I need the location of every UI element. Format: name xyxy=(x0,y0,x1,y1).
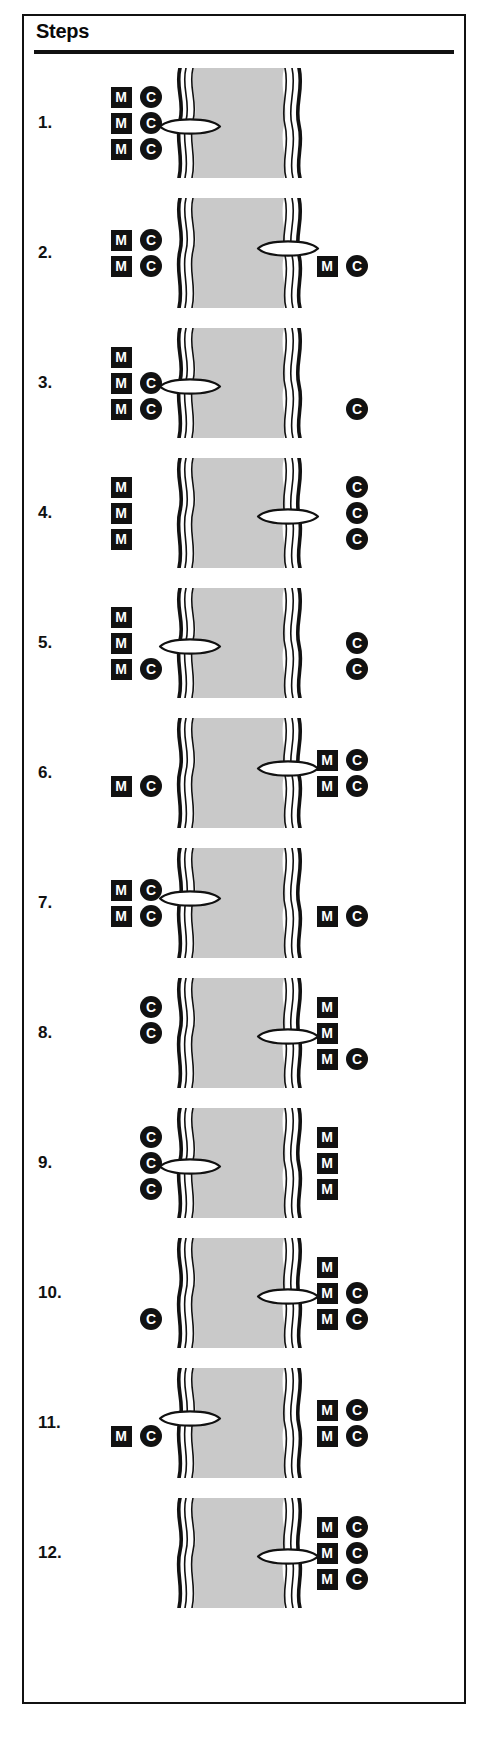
carrier-circle-label: C xyxy=(140,1308,162,1330)
methyl-square-label: M xyxy=(111,906,132,927)
glyph-row xyxy=(312,370,372,396)
step-number: 10. xyxy=(38,1283,62,1303)
right-glyph-column: C xyxy=(312,344,372,422)
carrier-circle-label: C xyxy=(346,749,368,771)
step-number: 2. xyxy=(38,243,52,263)
carrier-circle-icon: C xyxy=(136,1306,166,1332)
carrier-circle-label: C xyxy=(346,1048,368,1070)
carrier-circle-label: C xyxy=(346,255,368,277)
step-number: 4. xyxy=(38,503,52,523)
carrier-circle-label: C xyxy=(346,905,368,927)
glyph-row: C xyxy=(312,656,372,682)
methyl-square-icon: M xyxy=(312,1423,342,1449)
methyl-square-label: M xyxy=(317,1517,338,1538)
glyph-row: C xyxy=(106,1020,166,1046)
spacer xyxy=(111,1023,132,1044)
carrier-circle-label: C xyxy=(346,502,368,524)
carrier-circle-icon: C xyxy=(136,136,166,162)
carrier-circle-icon: C xyxy=(342,1540,372,1566)
spacer xyxy=(111,1309,132,1330)
glyph-row: C xyxy=(106,994,166,1020)
methyl-square-label: M xyxy=(317,1569,338,1590)
spacer xyxy=(347,1179,368,1200)
empty-slot xyxy=(312,370,342,396)
methyl-square-label: M xyxy=(111,880,132,901)
methyl-square-label: M xyxy=(111,1426,132,1447)
glyph-row: MC xyxy=(312,773,372,799)
right-glyph-column: CCC xyxy=(312,474,372,552)
methyl-square-label: M xyxy=(317,1179,338,1200)
spacer xyxy=(317,373,338,394)
methyl-square-icon: M xyxy=(106,474,136,500)
empty-slot xyxy=(342,1150,372,1176)
methyl-square-label: M xyxy=(111,776,132,797)
step-row: 1.MCMCMC xyxy=(24,62,464,184)
methyl-square-label: M xyxy=(111,399,132,420)
methyl-square-label: M xyxy=(317,1257,338,1278)
empty-slot xyxy=(106,1306,136,1332)
glyph-row: MC xyxy=(106,253,166,279)
spacer xyxy=(141,1283,162,1304)
empty-slot xyxy=(312,656,342,682)
glyph-row: MC xyxy=(106,396,166,422)
carrier-circle-label: C xyxy=(140,86,162,108)
spacer xyxy=(111,1283,132,1304)
carrier-circle-label: C xyxy=(346,1568,368,1590)
glyph-row: C xyxy=(312,474,372,500)
methyl-square-icon: M xyxy=(106,526,136,552)
spacer xyxy=(347,347,368,368)
vesicle-lens-icon xyxy=(256,1544,320,1569)
spacer xyxy=(141,529,162,550)
spacer xyxy=(141,750,162,771)
glyph-row: MC xyxy=(106,110,166,136)
spacer xyxy=(317,659,338,680)
methyl-square-label: M xyxy=(317,1309,338,1330)
step-number: 3. xyxy=(38,373,52,393)
empty-slot xyxy=(136,500,166,526)
right-glyph-column: MCMCMC xyxy=(312,1514,372,1592)
carrier-circle-icon: C xyxy=(136,396,166,422)
empty-slot xyxy=(312,604,342,630)
glyph-row: MC xyxy=(106,656,166,682)
step-row: 3.MMCMCC xyxy=(24,322,464,444)
methyl-square-label: M xyxy=(111,230,132,251)
carrier-circle-icon: C xyxy=(136,227,166,253)
glyph-row: MC xyxy=(312,903,372,929)
glyph-row: C xyxy=(312,396,372,422)
methyl-square-icon: M xyxy=(106,1423,136,1449)
carrier-circle-icon: C xyxy=(136,656,166,682)
vesicle-lens-icon xyxy=(256,1284,320,1309)
spacer xyxy=(347,880,368,901)
empty-slot xyxy=(106,1046,136,1072)
step-number: 1. xyxy=(38,113,52,133)
empty-slot xyxy=(106,1020,136,1046)
methyl-square-label: M xyxy=(317,1426,338,1447)
step-row: 4.MMMCCC xyxy=(24,452,464,574)
glyph-row: MC xyxy=(312,1397,372,1423)
methyl-square-icon: M xyxy=(106,500,136,526)
spacer xyxy=(111,1400,132,1421)
methyl-square-icon: M xyxy=(312,1514,342,1540)
methyl-square-icon: M xyxy=(312,903,342,929)
methyl-square-label: M xyxy=(111,503,132,524)
glyph-row: MC xyxy=(106,773,166,799)
carrier-circle-icon: C xyxy=(136,773,166,799)
glyph-row: M xyxy=(312,994,372,1020)
carrier-circle-icon: C xyxy=(342,773,372,799)
empty-slot xyxy=(342,227,372,253)
methyl-square-icon: M xyxy=(106,253,136,279)
methyl-square-icon: M xyxy=(106,656,136,682)
step-number: 9. xyxy=(38,1153,52,1173)
methyl-square-label: M xyxy=(111,529,132,550)
glyph-row: C xyxy=(106,1150,166,1176)
methyl-square-label: M xyxy=(111,477,132,498)
vesicle-lens-icon xyxy=(158,374,222,399)
methyl-square-label: M xyxy=(111,87,132,108)
empty-slot xyxy=(106,1280,136,1306)
vesicle-lens-icon xyxy=(158,1154,222,1179)
carrier-circle-icon: C xyxy=(342,526,372,552)
steps-panel: Steps 1.MCMCMC2.MCMCMC3.MMCMCC4.MMMCCC5.… xyxy=(22,14,466,1704)
glyph-row: M xyxy=(106,630,166,656)
carrier-circle-icon: C xyxy=(342,1306,372,1332)
spacer xyxy=(347,230,368,251)
